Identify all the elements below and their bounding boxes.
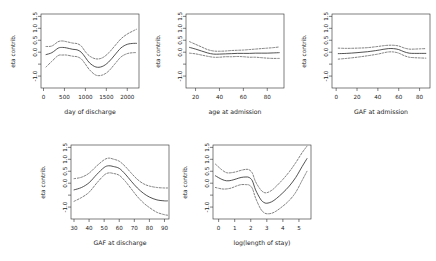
y-tick-label: 0.5 xyxy=(178,35,184,44)
x-tick-label: 5 xyxy=(297,225,301,231)
plot-frame xyxy=(213,145,311,219)
x-tick-label: 40 xyxy=(216,94,224,100)
panel-age-at-admission: 1.51.00.50.0-1.0eta contrib.20406080age … xyxy=(145,0,290,130)
x-tick-label: 1500 xyxy=(99,94,114,100)
x-tick-label: 30 xyxy=(70,225,78,231)
y-tick-label: 0.5 xyxy=(63,166,69,175)
x-axis-label: log(length of stay) xyxy=(234,239,291,247)
x-tick-label: 40 xyxy=(86,225,94,231)
y-tick-label: 0.5 xyxy=(33,35,39,44)
x-tick-label: 1000 xyxy=(78,94,93,100)
x-tick-label: 0 xyxy=(334,94,338,100)
y-tick-label: 0.5 xyxy=(324,35,330,44)
x-tick-label: 20 xyxy=(353,94,361,100)
plot-frame xyxy=(332,14,430,88)
x-tick-label: 90 xyxy=(161,225,169,231)
plot-log-length-of-stay-: 1.51.00.50.0-1.0eta contrib.012345log(le… xyxy=(172,131,317,261)
x-tick-label: 3 xyxy=(265,225,269,231)
plot-frame xyxy=(71,145,169,219)
y-tick-label: 1.0 xyxy=(324,23,330,32)
y-tick-label: 1.0 xyxy=(205,154,211,163)
x-tick-label: 500 xyxy=(59,94,70,100)
y-axis-label: eta contrib. xyxy=(182,165,188,199)
x-tick-label: 60 xyxy=(240,94,248,100)
x-axis-label: day of discharge xyxy=(64,108,116,116)
plot-gaf-at-discharge: 1.51.00.50.0-1.0eta contrib.304050607080… xyxy=(30,131,175,261)
series-upper-95-ci xyxy=(46,29,136,59)
x-axis-label: GAF at discharge xyxy=(94,239,147,247)
x-tick-label: 0 xyxy=(42,94,46,100)
x-axis-label: age at admission xyxy=(208,108,261,116)
y-axis-label: eta contrib. xyxy=(155,34,161,68)
y-tick-label: 0.0 xyxy=(324,47,330,56)
x-tick-label: 70 xyxy=(131,225,139,231)
y-tick-label: -1.0 xyxy=(324,70,330,81)
y-tick-label: 0.0 xyxy=(178,47,184,56)
series-fit xyxy=(74,166,167,201)
plot-gaf-at-admission: 1.51.00.50.0-1.0eta contrib.020406080GAF… xyxy=(291,0,436,130)
y-axis-label: eta contrib. xyxy=(10,34,16,68)
y-tick-label: -1.0 xyxy=(63,201,69,212)
y-tick-label: 1.0 xyxy=(63,154,69,163)
panel-day-of-discharge: 1.51.00.50.0-1.0eta contrib.050010001500… xyxy=(0,0,145,130)
panel-log-length-of-stay: 1.51.00.50.0-1.0eta contrib.012345log(le… xyxy=(172,131,317,261)
y-tick-label: -1.0 xyxy=(33,70,39,81)
series-fit xyxy=(215,159,307,204)
y-tick-label: 1.5 xyxy=(33,12,39,21)
y-tick-label: 1.5 xyxy=(63,143,69,152)
x-tick-label: 80 xyxy=(264,94,272,100)
y-tick-label: 1.0 xyxy=(178,23,184,32)
y-tick-label: -1.0 xyxy=(205,201,211,212)
plot-frame xyxy=(41,14,139,88)
x-tick-label: 0 xyxy=(217,225,221,231)
x-tick-label: 2000 xyxy=(120,94,135,100)
series-lower-95-ci xyxy=(190,53,280,58)
plot-age-at-admission: 1.51.00.50.0-1.0eta contrib.20406080age … xyxy=(145,0,290,130)
panel-gaf-at-admission: 1.51.00.50.0-1.0eta contrib.020406080GAF… xyxy=(291,0,436,130)
y-tick-label: 0.5 xyxy=(205,166,211,175)
series-lower-95-ci xyxy=(215,171,307,214)
y-axis-label: eta contrib. xyxy=(301,34,307,68)
y-tick-label: -1.0 xyxy=(178,70,184,81)
x-tick-label: 80 xyxy=(146,225,154,231)
series-upper-95-ci xyxy=(338,45,426,49)
x-tick-label: 80 xyxy=(416,94,424,100)
y-tick-label: 0.0 xyxy=(63,178,69,187)
x-tick-label: 4 xyxy=(281,225,285,231)
y-tick-label: 1.0 xyxy=(33,23,39,32)
y-tick-label: 0.0 xyxy=(33,47,39,56)
figure-panel-grid: 1.51.00.50.0-1.0eta contrib.050010001500… xyxy=(0,0,436,261)
plot-day-of-discharge: 1.51.00.50.0-1.0eta contrib.050010001500… xyxy=(0,0,145,130)
x-tick-label: 50 xyxy=(101,225,109,231)
y-tick-label: 1.5 xyxy=(205,143,211,152)
y-tick-label: 0.0 xyxy=(205,178,211,187)
x-tick-label: 60 xyxy=(395,94,403,100)
series-lower-95-ci xyxy=(74,173,167,215)
x-tick-label: 20 xyxy=(192,94,200,100)
x-tick-label: 40 xyxy=(374,94,382,100)
y-axis-label: eta contrib. xyxy=(40,165,46,199)
panel-gaf-at-discharge: 1.51.00.50.0-1.0eta contrib.304050607080… xyxy=(30,131,175,261)
x-axis-label: GAF at admission xyxy=(354,108,408,115)
y-tick-label: 1.5 xyxy=(324,12,330,21)
series-upper-95-ci xyxy=(190,42,280,52)
x-tick-label: 2 xyxy=(249,225,253,231)
y-tick-label: 1.5 xyxy=(178,12,184,21)
x-tick-label: 1 xyxy=(233,225,237,231)
series-upper-95-ci xyxy=(215,146,307,193)
x-tick-label: 60 xyxy=(116,225,124,231)
